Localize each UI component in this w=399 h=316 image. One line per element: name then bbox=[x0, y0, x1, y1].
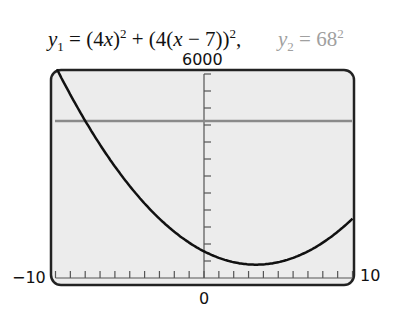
screen-frame bbox=[51, 70, 354, 285]
plot bbox=[0, 0, 399, 316]
